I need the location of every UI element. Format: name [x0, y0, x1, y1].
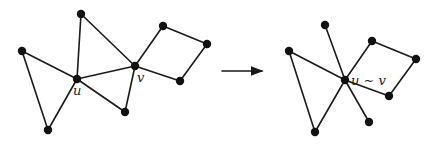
before-node-b: [77, 10, 85, 18]
graph-before: uv: [18, 10, 211, 134]
before-edge-e-f: [163, 26, 207, 44]
after-edge-f-g: [389, 59, 416, 96]
before-edge-u-d: [77, 79, 125, 112]
after-edge-c-uv: [315, 80, 345, 132]
after-edge-e-f: [372, 41, 416, 59]
before-label-u: u: [73, 83, 81, 98]
before-node-g: [176, 77, 184, 85]
after-node-uv: [341, 76, 349, 84]
graph-diagram: uv u ∼ v: [0, 0, 437, 148]
after-node-b: [321, 21, 329, 29]
after-node-a: [285, 47, 293, 55]
before-node-c: [44, 126, 52, 134]
before-edge-b-v: [81, 14, 135, 66]
graph-after: u ∼ v: [285, 21, 420, 136]
after-node-e: [368, 37, 376, 45]
before-edge-v-e: [135, 26, 163, 66]
before-edge-d-v: [125, 66, 135, 112]
before-edge-u-v: [77, 66, 135, 79]
before-edge-b-u: [77, 14, 81, 79]
after-node-f: [412, 55, 420, 63]
before-node-u: [73, 75, 81, 83]
after-node-c: [311, 128, 319, 136]
before-edge-f-g: [180, 44, 207, 81]
before-node-e: [159, 22, 167, 30]
before-label-v: v: [137, 70, 145, 85]
after-node-d: [365, 118, 373, 126]
before-node-v: [131, 62, 139, 70]
after-label-uv: u ∼ v: [351, 73, 387, 88]
after-node-g: [385, 92, 393, 100]
before-node-f: [203, 40, 211, 48]
before-node-a: [18, 47, 26, 55]
before-node-d: [121, 108, 129, 116]
